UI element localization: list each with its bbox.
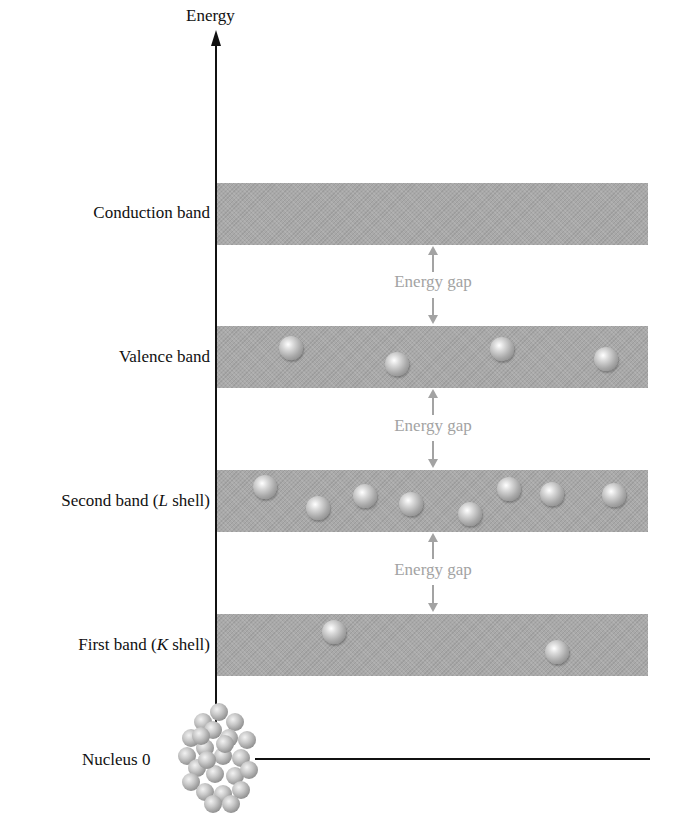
second-band-label-shell: L (159, 491, 168, 510)
nucleus-icon (177, 700, 259, 815)
gap-arrow-line (432, 254, 434, 272)
energy-gap-1: Energy gap (373, 246, 493, 326)
electron (253, 475, 277, 499)
gap-arrow-line (432, 298, 434, 316)
electron (306, 496, 330, 520)
electron (399, 492, 423, 516)
electron (490, 337, 514, 361)
electron (497, 477, 521, 501)
electron (322, 620, 346, 644)
electron (594, 347, 618, 371)
nucleus-label: Nucleus 0 (82, 750, 150, 770)
electron (385, 352, 409, 376)
second-band (217, 470, 648, 532)
electron (458, 502, 482, 526)
energy-gap-label: Energy gap (373, 560, 493, 580)
second-band-label-prefix: Second band ( (61, 491, 158, 510)
first-band-label-shell: K (157, 635, 168, 654)
second-band-label-suffix: shell) (168, 491, 210, 510)
conduction-band (217, 183, 648, 245)
energy-gap-label: Energy gap (373, 272, 493, 292)
energy-gap-3: Energy gap (373, 533, 493, 613)
arrow-down-icon (428, 459, 438, 468)
electron (602, 483, 626, 507)
electron (279, 336, 303, 360)
electron (353, 484, 377, 508)
gap-arrow-line (432, 397, 434, 415)
first-band-label-suffix: shell) (168, 635, 210, 654)
conduction-band-label: Conduction band (0, 203, 210, 223)
gap-arrow-line (432, 441, 434, 459)
energy-gap-label: Energy gap (373, 416, 493, 436)
first-band-label: First band (K shell) (0, 635, 210, 655)
gap-arrow-line (432, 585, 434, 603)
first-band-label-prefix: First band ( (78, 635, 156, 654)
first-band (217, 614, 648, 676)
electron (545, 640, 569, 664)
gap-arrow-line (432, 541, 434, 559)
energy-gap-2: Energy gap (373, 389, 493, 469)
arrow-down-icon (428, 315, 438, 324)
second-band-label: Second band (L shell) (0, 491, 210, 511)
energy-axis-label: Energy (186, 6, 235, 26)
baseline-axis-line (255, 758, 650, 760)
arrow-down-icon (428, 603, 438, 612)
valence-band-label: Valence band (0, 347, 210, 367)
valence-band (217, 326, 648, 388)
electron (540, 482, 564, 506)
